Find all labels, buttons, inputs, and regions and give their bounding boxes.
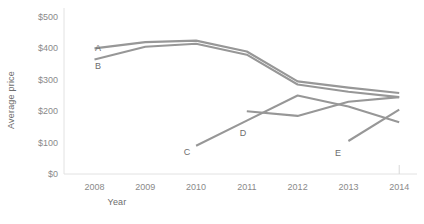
x-tick-label: 2010 (186, 182, 206, 192)
series-lines (95, 41, 400, 146)
plot-area (0, 0, 424, 224)
series-label-e: E (335, 148, 341, 158)
x-tick-label: 2008 (84, 182, 104, 192)
series-label-b: B (95, 61, 101, 71)
line-chart: Average price $0$100$200$300$400$500 200… (0, 0, 424, 224)
x-tick-label: 2013 (338, 182, 358, 192)
x-tick-label: 2014 (389, 182, 409, 192)
series-label-c: C (184, 147, 191, 157)
x-tick-label: 2012 (288, 182, 308, 192)
x-tick-label: 2011 (237, 182, 256, 192)
series-line-c (196, 96, 399, 146)
axes (64, 8, 417, 174)
x-tick-label: 2009 (135, 182, 155, 192)
x-axis-title: Year (97, 197, 137, 207)
series-label-a: A (95, 43, 101, 53)
series-label-d: D (240, 128, 247, 138)
series-line-d (247, 97, 399, 116)
